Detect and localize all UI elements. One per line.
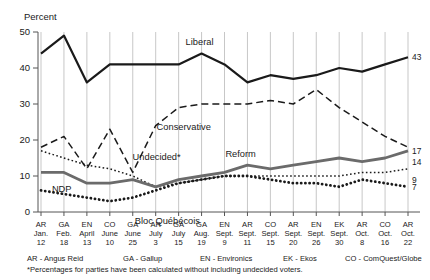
legend-entry: EN - Environics: [200, 254, 253, 263]
y-axis-title: Percent: [24, 11, 57, 22]
x-tick-pollster: AR: [150, 220, 161, 229]
y-tick-label: 0: [25, 206, 30, 217]
x-tick-month: June: [102, 229, 118, 238]
x-tick-month: July: [172, 229, 186, 238]
y-tick-label: 20: [19, 134, 30, 145]
x-tick-month: Sept.: [262, 229, 280, 238]
x-tick-day: 19: [197, 238, 205, 247]
x-tick-day: 26: [312, 238, 320, 247]
x-tick-month: Sept.: [330, 229, 348, 238]
x-tick-day: 9: [222, 238, 226, 247]
series-label-conservative: Conservative: [157, 122, 211, 132]
x-tick-day: 20: [289, 238, 297, 247]
x-tick-month: June: [125, 229, 141, 238]
x-tick-pollster: EK: [334, 220, 344, 229]
x-tick-month: Feb.: [56, 229, 71, 238]
x-tick-pollster: EN: [219, 220, 230, 229]
x-tick-month: Sept.: [239, 229, 257, 238]
chart-canvas: Percent 01020304050 LiberalConservativeU…: [0, 0, 430, 280]
y-tick-label: 30: [19, 98, 30, 109]
x-tick-day: 13: [83, 238, 91, 247]
y-tick-label: 40: [19, 62, 30, 73]
y-tick-label: 50: [19, 26, 30, 37]
x-tick-pollster: AR: [357, 220, 368, 229]
x-tick-month: Oct.: [401, 229, 415, 238]
x-tick-pollster: GA: [127, 220, 139, 229]
x-tick-day: 18: [60, 238, 68, 247]
x-tick-pollster: EN: [311, 220, 322, 229]
end-value-label: 43: [412, 52, 422, 62]
x-tick-day: 11: [243, 238, 251, 247]
legend-entry: AR - Angus Reid: [27, 254, 83, 263]
x-tick-pollster: AR: [403, 220, 414, 229]
x-tick-day: 12: [37, 238, 45, 247]
x-tick-month: Oct.: [355, 229, 369, 238]
x-tick-day: 3: [154, 238, 158, 247]
legend-entry: CO - ComQuest/Globe: [345, 254, 422, 263]
x-tick-month: Sept.: [284, 229, 302, 238]
x-tick-day: 15: [266, 238, 274, 247]
x-tick-pollster: CO: [104, 220, 115, 229]
x-tick-day: 25: [129, 238, 137, 247]
x-tick-day: 8: [360, 238, 364, 247]
x-tick-pollster: EN: [82, 220, 93, 229]
series-label-ndp: NDP: [52, 184, 72, 194]
x-tick-month: Oct.: [378, 229, 392, 238]
y-tick-label: 10: [19, 170, 30, 181]
x-tick-pollster: AR: [288, 220, 299, 229]
series-label-reform: Reform: [225, 149, 256, 159]
x-tick-pollster: GA: [196, 220, 208, 229]
x-tick-day: 15: [174, 238, 182, 247]
x-tick-pollster: CO: [265, 220, 276, 229]
x-tick-day: 10: [106, 238, 114, 247]
series-label-liberal: Liberal: [186, 37, 214, 47]
x-tick-month: Sept.: [307, 229, 325, 238]
end-value-label: 7: [412, 182, 417, 192]
end-value-label: 17: [412, 146, 422, 156]
x-tick-pollster: AR: [242, 220, 253, 229]
x-tick-pollster: GA: [58, 220, 70, 229]
x-tick-pollster: GA: [173, 220, 185, 229]
legend-entry: GA - Gallup: [123, 254, 162, 263]
x-tick-month: Sept.: [216, 229, 234, 238]
x-tick-month: Aug.: [194, 229, 210, 238]
legend-entry: EK - Ekos: [283, 254, 317, 263]
x-tick-pollster: AR: [36, 220, 47, 229]
footnote-text: *Percentages for parties have been calcu…: [27, 265, 303, 274]
x-tick-month: April: [79, 229, 95, 238]
x-tick-pollster: CO: [379, 220, 390, 229]
polling-line-chart: Percent 01020304050 LiberalConservativeU…: [0, 0, 430, 280]
end-value-label: 14: [412, 157, 422, 167]
x-tick-day: 30: [335, 238, 343, 247]
x-tick-month: Jan.: [34, 229, 48, 238]
x-tick-day: 22: [404, 238, 412, 247]
series-label-undecided: Undecided*: [133, 152, 181, 162]
x-tick-day: 16: [381, 238, 389, 247]
series-label-bloc-qu-b-cois: Bloc Québécois: [135, 216, 200, 226]
x-tick-month: July: [149, 229, 163, 238]
